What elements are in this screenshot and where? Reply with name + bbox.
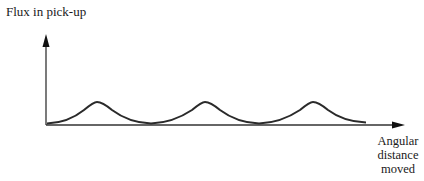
x-axis-label-line: Angular xyxy=(372,134,424,148)
x-axis-label-line: distance xyxy=(372,148,424,162)
x-axis xyxy=(46,122,405,129)
x-axis-arrowhead-icon xyxy=(392,122,405,129)
flux-curve xyxy=(47,102,366,124)
x-axis-label-line: moved xyxy=(372,162,424,176)
flux-diagram xyxy=(0,0,424,181)
x-axis-label: Angular distance moved xyxy=(372,134,424,176)
y-axis xyxy=(43,34,50,125)
y-axis-arrowhead-icon xyxy=(43,34,50,47)
